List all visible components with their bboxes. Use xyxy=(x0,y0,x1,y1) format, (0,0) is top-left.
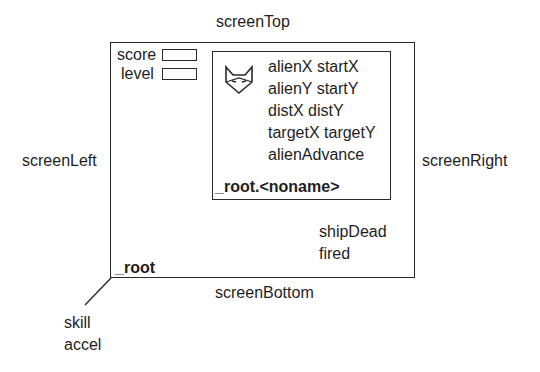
screen-left-label: screenLeft xyxy=(22,151,97,170)
level-field[interactable] xyxy=(162,68,197,80)
clip-var: alienY startY xyxy=(268,78,376,100)
root-label: _root xyxy=(115,258,155,277)
clip-instance-name: _root.<noname> xyxy=(215,177,339,196)
outside-var: accel xyxy=(64,335,101,354)
score-label: score xyxy=(117,45,156,64)
clip-variable-list: alienX startX alienY startY distX distY … xyxy=(268,56,376,166)
connector-line xyxy=(85,278,111,305)
fox-icon xyxy=(224,64,254,96)
screen-right-label: screenRight xyxy=(422,151,507,170)
level-label: level xyxy=(121,64,154,83)
root-var: fired xyxy=(319,244,350,263)
screen-bottom-label: screenBottom xyxy=(215,283,314,302)
clip-var: alienAdvance xyxy=(268,144,376,166)
score-field[interactable] xyxy=(162,49,197,61)
screen-top-label: screenTop xyxy=(216,12,290,31)
clip-var: targetX targetY xyxy=(268,122,376,144)
outside-var: skill xyxy=(64,313,91,332)
clip-var: distX distY xyxy=(268,100,376,122)
clip-var: alienX startX xyxy=(268,56,376,78)
root-var: shipDead xyxy=(319,222,387,241)
